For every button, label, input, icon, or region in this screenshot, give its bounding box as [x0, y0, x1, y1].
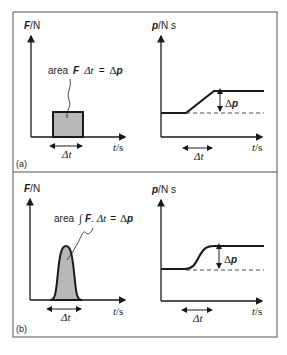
y-axis-label: F/N	[24, 183, 40, 194]
panel-b-force-plot: F/N area∫F. Δt=Δp Δt t/s	[24, 183, 133, 323]
x-axis-label: t/s	[252, 141, 262, 153]
delta-p-label: Δp	[225, 97, 238, 109]
delta-p-label: Δp	[224, 253, 237, 265]
interval-label: Δt	[192, 312, 203, 324]
interval-label: Δt	[60, 311, 71, 323]
y-axis-label: p/N s	[151, 20, 176, 31]
panel-a-force-plot: F/N areaFΔt=Δp Δt t/s	[24, 20, 125, 160]
interval-label: Δt	[193, 150, 204, 162]
x-axis-label: t/s	[113, 141, 123, 153]
panel-a: F/N areaFΔt=Δp Δt t/s p/N s	[16, 20, 264, 169]
impulse-area-pulse	[50, 246, 82, 300]
x-axis-label: t/s	[252, 305, 262, 317]
y-axis-label: F/N	[24, 20, 40, 31]
momentum-curve	[161, 91, 264, 113]
interval-label: Δt	[61, 148, 72, 160]
panel-b: F/N area∫F. Δt=Δp Δt t/s p/N s	[16, 183, 264, 334]
x-axis-label: t/s	[113, 305, 123, 317]
figure-frame	[13, 12, 277, 337]
momentum-curve	[161, 246, 264, 269]
panel-b-momentum-plot: p/N s Δp Δt t/s	[151, 184, 264, 324]
annotation-leader-line	[67, 228, 93, 260]
area-annotation: areaFΔt=Δp	[48, 64, 123, 76]
area-annotation: area∫F. Δt=Δp	[54, 212, 133, 225]
panel-tag: (a)	[16, 159, 27, 169]
impulse-momentum-figure: F/N areaFΔt=Δp Δt t/s p/N s	[0, 0, 287, 355]
panel-tag: (b)	[16, 324, 27, 334]
y-axis-label: p/N s	[151, 184, 176, 195]
panel-a-momentum-plot: p/N s Δp Δt t/s	[151, 20, 264, 162]
impulse-area-rect	[53, 112, 83, 137]
